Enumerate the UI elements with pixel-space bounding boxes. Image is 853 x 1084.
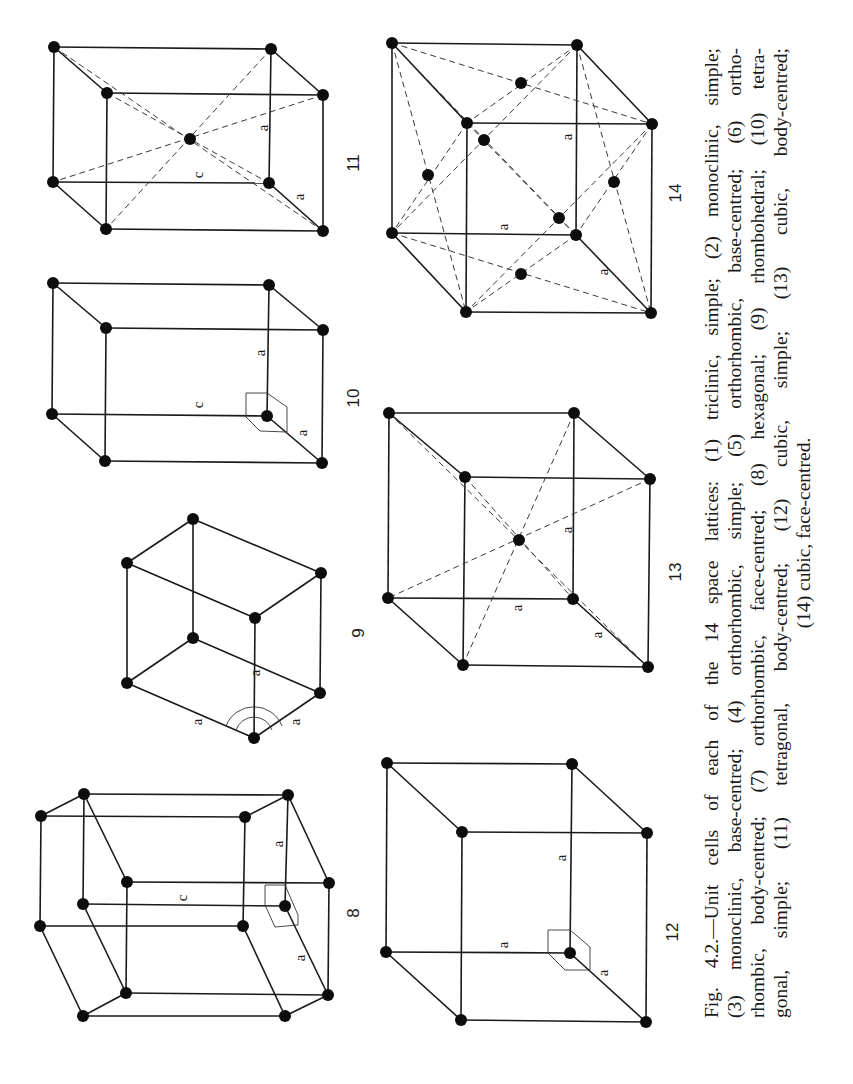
lattice-14-cubic-face-centred: a a a 14 <box>386 37 685 319</box>
axis-label-a: a <box>595 268 611 275</box>
axis-label-a: a <box>294 429 310 436</box>
lattice-8-hexagonal: a c a 8 <box>34 788 363 1022</box>
lattice-number-13: 13 <box>666 563 685 582</box>
figure-caption: Fig. 4.2.—Unit cells of each of the 14 s… <box>700 48 815 1018</box>
caption-line-1: Fig. 4.2.—Unit cells of each of the 14 s… <box>700 48 723 1018</box>
axis-label-a: a <box>255 124 271 131</box>
axis-label-a: a <box>292 954 308 961</box>
lattice-number-9: 9 <box>349 628 368 637</box>
axis-label-a: a <box>553 854 569 861</box>
axis-label-a: a <box>495 941 511 948</box>
lattice-12-cubic-simple: a a a 12 <box>380 757 682 1028</box>
lattice-9-rhombohedral: a a a 9 <box>121 513 368 744</box>
lattice-10-tetragonal-simple: a c a 10 <box>46 277 363 469</box>
axis-label-a: a <box>509 604 525 611</box>
axis-label-a: a <box>559 526 575 533</box>
lattice-11-tetragonal-body-centred: a c a 11 <box>47 41 363 237</box>
axis-label-a: a <box>559 133 575 140</box>
axis-label-c: c <box>190 171 206 178</box>
axis-label-a: a <box>589 631 605 638</box>
axis-label-a: a <box>287 718 303 725</box>
axis-label-a: a <box>270 840 286 847</box>
caption-line-3: rhombic, body-centred; (7) orthorhombic,… <box>746 48 769 1018</box>
axis-label-a: a <box>291 193 307 200</box>
lattice-13-cubic-body-centred: a a a 13 <box>382 407 685 673</box>
caption-line-2: (3) monoclinic, base-centred; (4) orthor… <box>723 48 746 1018</box>
caption-line-4: gonal, simple; (11) tetragonal, body-cen… <box>769 48 792 1018</box>
axis-label-c: c <box>174 894 190 901</box>
lattice-number-10: 10 <box>344 389 363 408</box>
axis-label-a: a <box>189 718 205 725</box>
axis-label-c: c <box>190 401 206 408</box>
caption-line-5: (14) cubic, face-centred. <box>792 48 815 1018</box>
axis-label-a: a <box>595 969 611 976</box>
axis-label-a: a <box>247 669 263 676</box>
lattice-number-14: 14 <box>666 184 685 203</box>
axis-label-a: a <box>495 223 511 230</box>
axis-label-a: a <box>252 349 268 356</box>
lattice-number-11: 11 <box>344 154 363 172</box>
lattice-number-12: 12 <box>663 923 682 942</box>
lattice-number-8: 8 <box>344 908 363 917</box>
